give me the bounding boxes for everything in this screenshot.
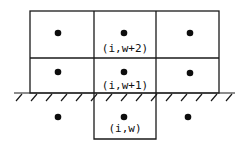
node-dot [121, 69, 128, 76]
label-i-w-plus-1: (i,w+1) [102, 79, 148, 92]
node-dot [55, 69, 62, 76]
node-dot [55, 30, 62, 37]
node-dot [187, 70, 194, 77]
grid-diagram: (i,w+2) (i,w+1) (i,w) [0, 0, 246, 148]
label-i-w-plus-2: (i,w+2) [102, 42, 148, 55]
node-dot [187, 30, 194, 37]
node-dot [121, 30, 128, 37]
node-dot [121, 114, 128, 121]
wall-boundary [14, 93, 235, 101]
wall-hatching [16, 94, 232, 101]
label-i-w: (i,w) [108, 122, 141, 135]
node-dot [185, 114, 192, 121]
node-dot [55, 114, 62, 121]
